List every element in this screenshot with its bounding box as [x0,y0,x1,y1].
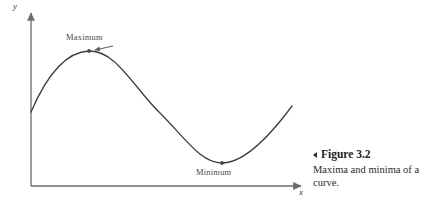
maximum-point-marker [87,49,91,53]
minimum-point-marker [220,161,224,165]
x-axis-label: x [299,188,303,197]
figure-number-label: Figure 3.2 [321,148,371,161]
caption-title-row: Figure 3.2 [313,148,441,161]
maximum-leader-line [95,46,113,50]
figure-container: y x Maximum Minimum Figure 3.2 Maxima an… [0,0,446,202]
caption-description: Maxima and minima of a curve. [313,163,441,190]
y-axis-label: y [13,2,17,11]
figure-caption: Figure 3.2 Maxima and minima of a curve. [313,148,441,190]
function-curve [31,51,292,163]
left-triangle-icon [313,152,317,158]
maximum-annotation-label: Maximum [66,33,103,42]
minimum-annotation-label: Minimum [196,168,231,177]
